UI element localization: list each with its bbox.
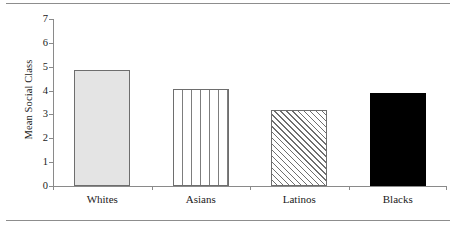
x-tick-label-latinos: Latinos [283, 193, 316, 205]
bar-blacks [370, 93, 426, 186]
y-axis-line [53, 19, 54, 186]
y-tick-5 [49, 67, 53, 68]
y-tick-6 [49, 43, 53, 44]
y-tick-3 [49, 114, 53, 115]
bar-latinos [271, 110, 327, 186]
y-tick-label-3: 3 [33, 109, 48, 120]
x-tick-label-whites: Whites [87, 193, 118, 205]
bar-asians [173, 89, 229, 186]
x-tick-1 [152, 186, 153, 190]
figure-container: Mean Social Class 01234567 WhitesAsiansL… [0, 0, 456, 232]
y-tick-label-6: 6 [33, 38, 48, 49]
y-tick-label-4: 4 [33, 85, 48, 96]
y-tick-7 [49, 19, 53, 20]
y-tick-label-5: 5 [33, 61, 48, 72]
bar-whites [74, 70, 130, 186]
chart-plot-area: Mean Social Class 01234567 WhitesAsiansL… [0, 0, 456, 232]
y-tick-4 [49, 91, 53, 92]
x-tick-4 [446, 186, 447, 190]
x-tick-2 [250, 186, 251, 190]
x-tick-0 [53, 186, 54, 190]
y-tick-label-0: 0 [33, 181, 48, 192]
y-tick-2 [49, 138, 53, 139]
x-tick-label-asians: Asians [186, 193, 216, 205]
x-tick-label-blacks: Blacks [383, 193, 413, 205]
y-tick-1 [49, 162, 53, 163]
y-axis-title: Mean Social Class [23, 20, 34, 180]
y-tick-label-1: 1 [33, 157, 48, 168]
x-tick-3 [349, 186, 350, 190]
y-tick-label-7: 7 [33, 14, 48, 25]
y-tick-label-2: 2 [33, 133, 48, 144]
